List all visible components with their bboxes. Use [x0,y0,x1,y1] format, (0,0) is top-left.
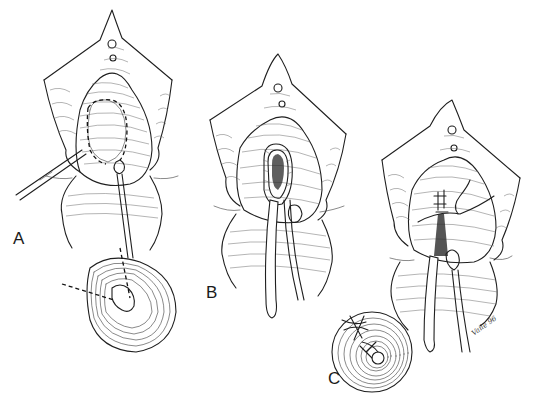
panel-c-drawing [382,100,520,352]
panel-label-a: A [13,230,24,247]
panel-b-drawing [210,54,346,318]
panel-c-cross-section [332,312,412,392]
panel-a-cross-section [62,248,176,352]
panel-label-b: B [206,284,217,301]
illustration-artwork [0,0,536,398]
panel-a-drawing [16,10,178,258]
panel-label-c: C [328,370,340,387]
surgical-illustration: A B C Vaile 96 [0,0,536,398]
